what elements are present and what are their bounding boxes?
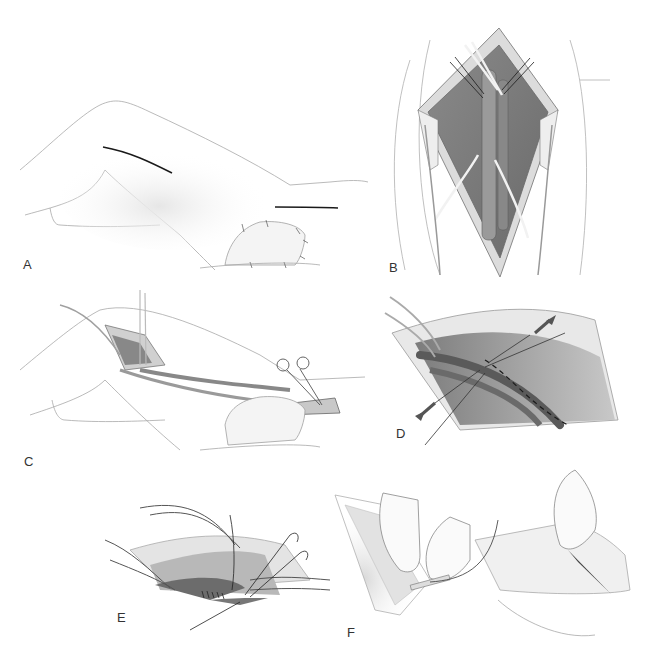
panel-label-b: B <box>389 261 398 274</box>
panel-c: C <box>0 285 380 475</box>
leg-incisions-illustration <box>0 0 380 285</box>
graft-tunnel-illustration <box>0 285 380 475</box>
panel-label-a: A <box>23 258 32 271</box>
distal-anastomosis-illustration <box>90 470 340 654</box>
panel-f: F <box>320 460 650 654</box>
panel-label-e: E <box>117 611 126 624</box>
open-incision-illustration <box>380 0 650 285</box>
panel-b: B <box>380 0 650 285</box>
panel-d: D <box>380 285 650 460</box>
panel-label-d: D <box>396 427 405 440</box>
panel-label-f: F <box>347 626 355 639</box>
incision-knee <box>275 207 338 208</box>
graft-tunneling-hands-illustration <box>320 460 650 654</box>
panel-label-c: C <box>24 455 33 468</box>
panel-e: E <box>90 470 340 654</box>
panel-a: A <box>0 0 380 285</box>
anastomosis-closeup-illustration <box>380 285 650 460</box>
